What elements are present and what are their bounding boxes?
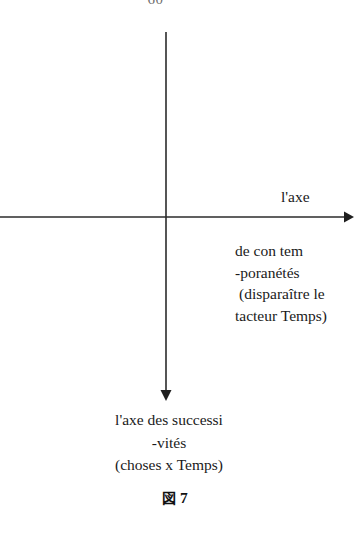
figure-caption-number: 7 xyxy=(180,489,188,506)
x-axis-description-line-1: de con tem xyxy=(235,240,327,262)
figure-caption: 図 7 xyxy=(0,487,350,507)
x-axis-label: l'axe xyxy=(281,186,310,207)
y-axis-description-block: l'axe des successi -vités (choses x Temp… xyxy=(0,409,338,477)
y-axis-description-line-1: l'axe des successi xyxy=(0,409,338,432)
horizontal-axis-arrowhead xyxy=(344,212,354,223)
figure-page: 60 l'axe de con tem -poranétés (disparaî… xyxy=(0,0,355,541)
x-axis-description-line-4: tacteur Temps) xyxy=(235,305,327,327)
x-axis-description-block: de con tem -poranétés (disparaître le ta… xyxy=(235,240,327,326)
y-axis-description-line-3: (choses x Temps) xyxy=(0,454,338,477)
x-axis-description-line-3: (disparaître le xyxy=(235,283,327,305)
vertical-axis-arrowhead xyxy=(161,390,172,401)
figure-caption-symbol: 図 xyxy=(162,490,176,506)
x-axis-description-line-2: -poranétés xyxy=(235,262,327,284)
y-axis-description-line-2: -vités xyxy=(0,432,338,455)
